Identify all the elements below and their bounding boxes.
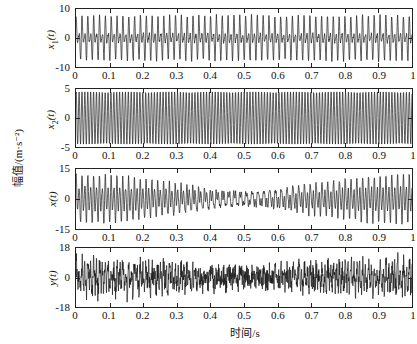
- y-axis-label-x2: x2(t): [44, 100, 59, 140]
- x-tick-label: 0.5: [232, 70, 256, 81]
- x-tick-label: 0: [63, 310, 87, 321]
- x-tick-label: 0.7: [300, 150, 324, 161]
- signal-trace-x2: [76, 89, 412, 147]
- x-tick-label: 0.6: [266, 232, 290, 243]
- x-tick-label: 0.3: [164, 232, 188, 243]
- x-tick-label: 0.6: [266, 70, 290, 81]
- x-tick-label: 0.9: [367, 150, 391, 161]
- x-tick-label: 0.2: [131, 310, 155, 321]
- x-tick-label: 0.6: [266, 150, 290, 161]
- x-tick-label: 0.2: [131, 70, 155, 81]
- x-tick-label: 0.5: [232, 150, 256, 161]
- x-tick-label: 0.8: [333, 310, 357, 321]
- x-tick-label: 0.9: [367, 232, 391, 243]
- x-tick-label: 0.1: [97, 232, 121, 243]
- x-tick-label: 0.7: [300, 310, 324, 321]
- y-axis-label-y: y(t): [46, 258, 58, 298]
- x-tick-label: 1: [401, 232, 417, 243]
- x-tick-label: 0.7: [300, 232, 324, 243]
- x-tick-label: 0.8: [333, 150, 357, 161]
- x-tick-label: 0.4: [198, 232, 222, 243]
- x-tick-label: 0: [63, 232, 87, 243]
- x-tick-label: 0.8: [333, 232, 357, 243]
- y-tick-label: 10: [44, 3, 70, 14]
- x-tick-label: 0.2: [131, 232, 155, 243]
- y-tick-label: 18: [44, 242, 70, 253]
- plot-panel-y: [75, 247, 413, 308]
- x-tick-label: 0.3: [164, 310, 188, 321]
- x-tick-label: 0.3: [164, 150, 188, 161]
- shared-y-axis-label: 幅值/(m·s⁻²): [9, 103, 25, 213]
- shared-x-axis-label: 时间/s: [215, 324, 275, 340]
- x-tick-label: 0.4: [198, 150, 222, 161]
- x-tick-label: 0.8: [333, 70, 357, 81]
- x-tick-label: 0.2: [131, 150, 155, 161]
- x-tick-label: 1: [401, 310, 417, 321]
- signal-trace-x: [76, 169, 412, 229]
- plot-panel-x2: [75, 88, 413, 148]
- x-tick-label: 1: [401, 150, 417, 161]
- x-tick-label: 0.5: [232, 310, 256, 321]
- y-tick-label: 5: [44, 83, 70, 94]
- signal-trace-y: [76, 248, 412, 307]
- y-axis-label-x1: x1(t): [44, 20, 59, 60]
- x-tick-label: 0.6: [266, 310, 290, 321]
- x-tick-label: 0.7: [300, 70, 324, 81]
- x-tick-label: 0: [63, 70, 87, 81]
- x-tick-label: 0.1: [97, 70, 121, 81]
- plot-panel-x: [75, 168, 413, 230]
- x-tick-label: 0.9: [367, 70, 391, 81]
- x-tick-label: 0.4: [198, 70, 222, 81]
- x-tick-label: 0.5: [232, 232, 256, 243]
- y-axis-label-x: x(t): [46, 179, 58, 219]
- y-tick-label: 15: [44, 163, 70, 174]
- x-tick-label: 0.1: [97, 150, 121, 161]
- x-tick-label: 0.1: [97, 310, 121, 321]
- x-tick-label: 0.3: [164, 70, 188, 81]
- x-tick-label: 0: [63, 150, 87, 161]
- x-tick-label: 0.4: [198, 310, 222, 321]
- plot-panel-x1: [75, 8, 413, 68]
- signal-trace-x1: [76, 9, 412, 67]
- x-tick-label: 1: [401, 70, 417, 81]
- x-tick-label: 0.9: [367, 310, 391, 321]
